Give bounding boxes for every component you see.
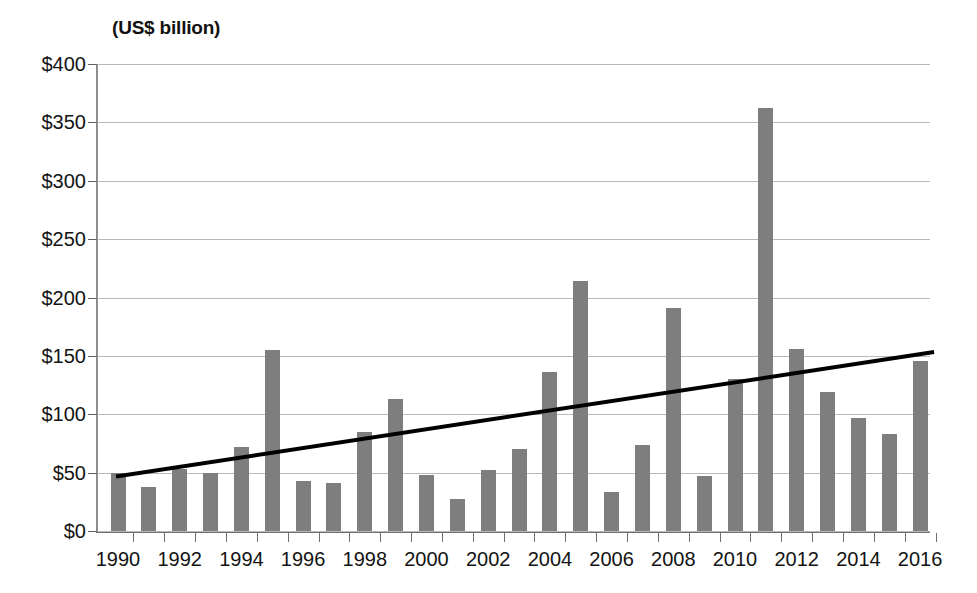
bar bbox=[326, 483, 341, 531]
x-axis-tick-mark bbox=[627, 533, 628, 542]
x-axis-tick-mark bbox=[257, 533, 258, 542]
y-axis-tick-label: $50 bbox=[53, 461, 86, 484]
bar bbox=[419, 475, 434, 531]
x-axis-tick-mark bbox=[195, 533, 196, 542]
y-axis-tick-label: $400 bbox=[42, 53, 87, 76]
x-axis-tick-mark bbox=[596, 533, 597, 542]
y-axis-tick-label: $350 bbox=[42, 111, 87, 134]
x-axis-tick-mark bbox=[534, 533, 535, 542]
gridline bbox=[96, 122, 930, 123]
y-axis-tick-mark bbox=[88, 298, 97, 299]
bar bbox=[882, 434, 897, 531]
x-axis-tick-mark bbox=[133, 533, 134, 542]
bar bbox=[604, 492, 619, 531]
x-axis-tick-mark bbox=[843, 533, 844, 542]
x-axis-tick-mark bbox=[319, 533, 320, 542]
gridline bbox=[96, 414, 930, 415]
x-axis-tick-label: 2008 bbox=[651, 548, 696, 571]
x-axis-tick-label: 2010 bbox=[713, 548, 758, 571]
bar bbox=[203, 473, 218, 531]
x-axis-tick-mark bbox=[689, 533, 690, 542]
bar bbox=[234, 447, 249, 531]
bar bbox=[728, 379, 743, 531]
x-axis-tick-mark bbox=[905, 533, 906, 542]
bar bbox=[758, 108, 773, 531]
x-axis-tick-mark bbox=[164, 533, 165, 542]
bar bbox=[573, 281, 588, 531]
bar bbox=[512, 449, 527, 531]
gridline bbox=[96, 64, 930, 65]
x-axis-tick-mark bbox=[781, 533, 782, 542]
y-axis-tick-mark bbox=[88, 414, 97, 415]
x-axis-tick-mark bbox=[411, 533, 412, 542]
x-axis-tick-mark bbox=[442, 533, 443, 542]
bar bbox=[666, 308, 681, 531]
x-axis-tick-mark bbox=[658, 533, 659, 542]
y-axis-tick-label: $150 bbox=[42, 344, 87, 367]
x-axis-tick-mark bbox=[349, 533, 350, 542]
y-axis-tick-mark bbox=[88, 239, 97, 240]
y-axis-tick-mark bbox=[88, 531, 97, 532]
gridline bbox=[96, 239, 930, 240]
x-axis-tick-label: 2006 bbox=[589, 548, 634, 571]
x-axis-tick-mark bbox=[812, 533, 813, 542]
x-axis-tick-label: 2014 bbox=[836, 548, 881, 571]
bar bbox=[820, 392, 835, 531]
y-axis-tick-label: $300 bbox=[42, 169, 87, 192]
x-axis-tick-mark bbox=[380, 533, 381, 542]
bar bbox=[913, 361, 928, 531]
bar bbox=[141, 487, 156, 531]
bar bbox=[357, 432, 372, 531]
plot-area bbox=[96, 64, 930, 531]
bar bbox=[542, 372, 557, 531]
x-axis-tick-mark bbox=[288, 533, 289, 542]
y-axis-tick-mark bbox=[88, 122, 97, 123]
bar bbox=[265, 350, 280, 531]
y-axis-tick-label: $250 bbox=[42, 228, 87, 251]
gridline bbox=[96, 356, 930, 357]
x-axis-tick-mark bbox=[473, 533, 474, 542]
bar bbox=[111, 473, 126, 531]
x-axis-tick-mark bbox=[750, 533, 751, 542]
y-axis-tick-mark bbox=[88, 181, 97, 182]
gridline bbox=[96, 181, 930, 182]
bar bbox=[697, 476, 712, 531]
bar bbox=[635, 445, 650, 531]
x-axis-tick-label: 1994 bbox=[219, 548, 264, 571]
x-axis-tick-label: 2000 bbox=[404, 548, 449, 571]
x-axis-tick-label: 2002 bbox=[466, 548, 511, 571]
gridline bbox=[96, 298, 930, 299]
x-axis-tick-label: 2004 bbox=[528, 548, 573, 571]
y-axis-tick-mark bbox=[88, 473, 97, 474]
bar bbox=[851, 418, 866, 531]
y-axis-tick-mark bbox=[88, 356, 97, 357]
x-axis-tick-mark bbox=[226, 533, 227, 542]
bar bbox=[481, 470, 496, 531]
x-axis-tick-mark bbox=[504, 533, 505, 542]
x-axis-tick-label: 2012 bbox=[774, 548, 819, 571]
bar-chart-figure: (US$ billion) $0$50$100$150$200$250$300$… bbox=[0, 0, 977, 593]
x-axis-tick-label: 1996 bbox=[281, 548, 326, 571]
chart-title: (US$ billion) bbox=[112, 17, 220, 39]
x-axis-tick-label: 1990 bbox=[96, 548, 141, 571]
y-axis-tick-label: $200 bbox=[42, 286, 87, 309]
gridline bbox=[96, 531, 930, 532]
x-axis-tick-mark bbox=[874, 533, 875, 542]
bar bbox=[450, 499, 465, 531]
x-axis-tick-mark bbox=[720, 533, 721, 542]
y-axis-tick-label: $0 bbox=[64, 520, 86, 543]
bar bbox=[296, 481, 311, 531]
y-axis-tick-mark bbox=[88, 64, 97, 65]
bar bbox=[388, 399, 403, 531]
x-axis-tick-label: 1992 bbox=[157, 548, 202, 571]
y-axis-tick-label: $100 bbox=[42, 403, 87, 426]
bar bbox=[789, 349, 804, 531]
y-axis-tick-labels: $0$50$100$150$200$250$300$350$400 bbox=[0, 0, 86, 593]
x-axis-tick-label: 1998 bbox=[343, 548, 388, 571]
x-axis-tick-label: 2016 bbox=[898, 548, 943, 571]
x-axis-tick-mark bbox=[565, 533, 566, 542]
x-axis-tick-mark bbox=[936, 533, 937, 542]
bar bbox=[172, 469, 187, 531]
